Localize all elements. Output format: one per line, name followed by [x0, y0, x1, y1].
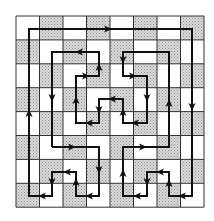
- grid-cell-shaded: [16, 40, 40, 64]
- grid-cell-plain: [134, 88, 158, 112]
- grid-cell-plain: [16, 16, 40, 40]
- grid-path-diagram: [0, 0, 214, 221]
- grid-cell-plain: [16, 159, 40, 183]
- grid-cell-shaded: [40, 16, 64, 40]
- grid-cell-plain: [63, 16, 87, 40]
- grid-cell-shaded: [16, 88, 40, 112]
- grid-cell-plain: [110, 159, 134, 183]
- grid-cell-plain: [16, 64, 40, 88]
- grid-cell-plain: [157, 16, 181, 40]
- grid-cell-shaded: [16, 136, 40, 160]
- grid-cell-plain: [110, 16, 134, 40]
- grid-cell-shaded: [134, 16, 158, 40]
